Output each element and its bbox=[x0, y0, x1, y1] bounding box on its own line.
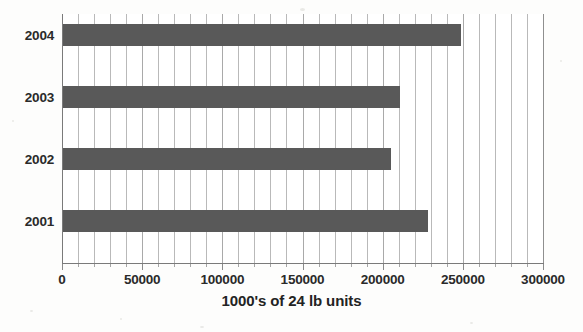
x-axis-minor-tick bbox=[431, 264, 432, 267]
x-axis-minor-tick bbox=[399, 264, 400, 267]
minor-gridline bbox=[495, 14, 496, 263]
y-axis-tick-label-2004: 2004 bbox=[25, 27, 54, 42]
x-axis-minor-tick bbox=[495, 264, 496, 267]
chart-page: 050000100000150000200000250000300000 200… bbox=[0, 0, 583, 332]
x-axis-tick-label: 50000 bbox=[124, 272, 161, 287]
minor-gridline bbox=[479, 14, 480, 263]
minor-gridline bbox=[527, 14, 528, 263]
x-axis-major-tick bbox=[222, 264, 223, 270]
x-axis-tick-label: 0 bbox=[58, 272, 65, 287]
x-axis-minor-tick bbox=[367, 264, 368, 267]
minor-gridline bbox=[431, 14, 432, 263]
x-axis-minor-tick bbox=[254, 264, 255, 267]
x-axis-major-tick bbox=[62, 264, 63, 270]
plot-area bbox=[62, 14, 543, 263]
x-axis-minor-tick bbox=[335, 264, 336, 267]
bar-2004 bbox=[62, 24, 461, 46]
minor-gridline bbox=[511, 14, 512, 263]
x-axis-major-tick bbox=[463, 264, 464, 270]
x-axis-major-tick bbox=[142, 264, 143, 270]
x-axis-minor-tick bbox=[511, 264, 512, 267]
x-axis-minor-tick bbox=[190, 264, 191, 267]
x-axis-minor-tick bbox=[479, 264, 480, 267]
bar-2002 bbox=[62, 148, 391, 170]
x-axis-minor-tick bbox=[238, 264, 239, 267]
major-gridline bbox=[543, 14, 544, 263]
x-axis-title: 1000's of 24 lb units bbox=[0, 292, 583, 309]
x-axis-minor-tick bbox=[527, 264, 528, 267]
y-axis-tick-labels: 2004200320022001 bbox=[0, 0, 54, 332]
x-axis-minor-tick bbox=[174, 264, 175, 267]
y-axis-tick-label-2001: 2001 bbox=[25, 214, 54, 229]
x-axis-minor-tick bbox=[78, 264, 79, 267]
x-axis-tick-label: 250000 bbox=[441, 272, 485, 287]
x-axis-tick-label: 100000 bbox=[200, 272, 244, 287]
x-axis-minor-tick bbox=[447, 264, 448, 267]
y-axis-tick-label-2002: 2002 bbox=[25, 152, 54, 167]
x-axis-minor-tick bbox=[286, 264, 287, 267]
minor-gridline bbox=[447, 14, 448, 263]
x-axis-major-tick bbox=[383, 264, 384, 270]
scan-speck bbox=[470, 322, 473, 324]
scan-speck bbox=[30, 310, 33, 312]
x-axis-tick-label: 200000 bbox=[361, 272, 405, 287]
x-axis-minor-tick bbox=[94, 264, 95, 267]
y-axis-line bbox=[62, 14, 63, 264]
x-axis-minor-tick bbox=[319, 264, 320, 267]
scan-speck bbox=[200, 326, 204, 328]
x-axis-minor-tick bbox=[206, 264, 207, 267]
scan-speck bbox=[120, 318, 122, 320]
x-axis-tick-label: 150000 bbox=[281, 272, 325, 287]
scan-speck bbox=[560, 60, 562, 62]
y-axis-tick-label-2003: 2003 bbox=[25, 89, 54, 104]
bar-2003 bbox=[62, 86, 400, 108]
major-gridline bbox=[463, 14, 464, 263]
scan-speck bbox=[12, 120, 14, 122]
x-axis-major-tick bbox=[543, 264, 544, 270]
scan-speck bbox=[300, 8, 305, 11]
x-axis-minor-tick bbox=[270, 264, 271, 267]
bar-2001 bbox=[62, 210, 428, 232]
x-axis-minor-tick bbox=[126, 264, 127, 267]
x-axis-minor-tick bbox=[158, 264, 159, 267]
x-axis-tick-label: 300000 bbox=[521, 272, 565, 287]
x-axis-minor-tick bbox=[415, 264, 416, 267]
x-axis-major-tick bbox=[303, 264, 304, 270]
x-axis-minor-tick bbox=[351, 264, 352, 267]
x-axis-minor-tick bbox=[110, 264, 111, 267]
